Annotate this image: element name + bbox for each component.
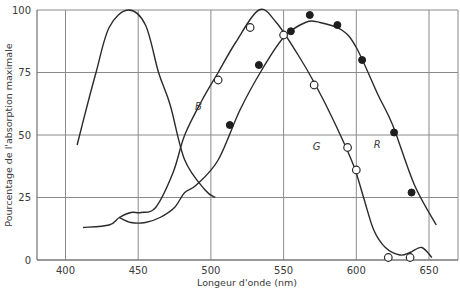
curves [77,9,436,257]
y-tick-label: 25 [18,192,31,203]
y-tick-label: 50 [18,130,31,141]
x-tick-label: 550 [274,265,293,276]
open-circle-point [246,24,254,32]
open-circle-point [406,254,414,262]
x-axis-label: Longeur d'onde (nm) [197,277,297,288]
open-circle-point [353,166,361,174]
curve-label-g: G [313,141,321,152]
filled-circle-point [226,122,233,129]
y-tick-labels: 0255075100 [12,5,31,266]
absorption-spectrum-chart: 400450500550600650 0255075100 BGR Longeu… [0,0,460,293]
filled-circle-point [334,22,341,29]
filled-circle-point [359,57,366,64]
y-axis-label: Pourcentage de l'absorption maximale [3,43,14,226]
curve-label-r: R [374,139,381,150]
open-circle-point [280,31,288,39]
open-circle-point [214,76,222,84]
x-tick-labels: 400450500550600650 [56,265,439,276]
filled-circle-point [391,129,398,136]
filled-circle-point [306,12,313,19]
filled-circle-point [287,28,294,35]
curve-r [119,21,436,225]
open-circle-point [310,81,318,89]
x-tick-label: 400 [56,265,75,276]
x-tick-label: 500 [201,265,220,276]
y-tick-label: 75 [18,67,31,78]
curve-label-b: B [195,101,202,112]
curve-g [83,9,432,257]
data-points [214,12,415,262]
y-tick-label: 0 [25,255,31,266]
open-circle-point [384,254,392,262]
open-circle-point [344,144,352,152]
y-tick-label: 100 [12,5,31,16]
x-tick-label: 450 [129,265,148,276]
x-tick-label: 600 [347,265,366,276]
filled-circle-point [255,62,262,69]
x-tick-label: 650 [419,265,438,276]
filled-circle-point [408,189,415,196]
curve-labels: BGR [195,101,381,152]
